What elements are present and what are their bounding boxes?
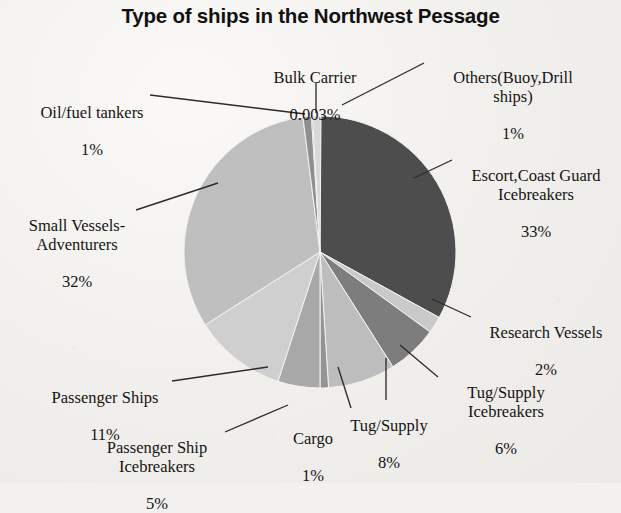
pie-label-passenger-ships-name: Passenger Ships <box>20 389 190 408</box>
pie-label-oil-fuel-tankers: Oil/fuel tankers 1% <box>18 85 166 179</box>
pie-label-others-name: Others(Buoy,Drill ships) <box>424 69 602 107</box>
leader-line-tug-supply-ice <box>400 345 438 377</box>
pie-label-research-vessels-name: Research Vessels <box>472 324 620 343</box>
pie-label-oil-fuel-tankers-name: Oil/fuel tankers <box>18 104 166 123</box>
pie-label-passenger-ship-icebreakers: Passenger Ship Icebreakers 5% <box>76 420 238 513</box>
pie-label-escort-value: 33% <box>452 223 620 242</box>
pie-label-escort-coast-guard-icebreakers: Escort,Coast Guard Icebreakers 33% <box>452 148 620 261</box>
pie-label-cargo: Cargo 1% <box>276 411 350 505</box>
pie-label-others-value: 1% <box>424 125 602 144</box>
pie-label-tug-supply-icebreakers-name: Tug/Supply Icebreakers <box>440 384 572 422</box>
pie-label-passenger-ship-icebreakers-value: 5% <box>76 495 238 513</box>
pie-label-tug-supply-icebreakers: Tug/Supply Icebreakers 6% <box>440 365 572 478</box>
pie-label-small-vessels-adventurers: Small Vessels- Adventurers 32% <box>2 198 152 311</box>
pie-label-bulk-carrier: Bulk Carrier 0.003% <box>240 50 390 144</box>
pie-label-bulk-carrier-value: 0.003% <box>240 106 390 125</box>
pie-label-bulk-carrier-name: Bulk Carrier <box>240 69 390 88</box>
leader-line-research-vessels <box>432 299 471 317</box>
pie-label-others: Others(Buoy,Drill ships) 1% <box>424 50 602 163</box>
pie-label-small-vessels-value: 32% <box>2 273 152 292</box>
pie-label-cargo-name: Cargo <box>276 430 350 449</box>
pie-label-escort-name: Escort,Coast Guard Icebreakers <box>452 167 620 205</box>
pie-label-tug-supply-icebreakers-value: 6% <box>440 440 572 459</box>
pie-label-small-vessels-name: Small Vessels- Adventurers <box>2 217 152 255</box>
pie-label-cargo-value: 1% <box>276 467 350 486</box>
pie-label-oil-fuel-tankers-value: 1% <box>18 141 166 160</box>
pie-label-passenger-ship-icebreakers-name: Passenger Ship Icebreakers <box>76 439 238 477</box>
